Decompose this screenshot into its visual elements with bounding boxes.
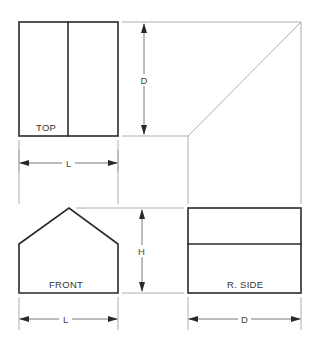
- top-view: TOP: [19, 22, 118, 136]
- dimension-front-length: L: [19, 314, 118, 325]
- dimension-side-depth: D: [188, 314, 301, 325]
- dimension-front-height: H: [138, 209, 145, 292]
- arrow-left-icon: [19, 160, 29, 166]
- right-side-view-label: R. SIDE: [227, 279, 263, 290]
- dimension-top-length: L: [19, 158, 118, 169]
- front-view: FRONT: [19, 208, 118, 293]
- orthographic-drawing: TOP FRONT R. SIDE D L H: [0, 0, 320, 358]
- arrow-down-icon: [141, 125, 147, 135]
- arrow-right-icon: [108, 316, 118, 322]
- dimension-label-l: L: [66, 158, 71, 169]
- dimension-label-d: D: [141, 75, 148, 86]
- arrow-left-icon: [19, 316, 29, 322]
- front-view-label: FRONT: [49, 279, 83, 290]
- miter-line: [188, 22, 301, 136]
- dimension-label-h: H: [138, 246, 145, 257]
- arrow-down-icon: [139, 282, 145, 292]
- top-view-label: TOP: [36, 122, 56, 133]
- dimension-label-l: L: [63, 314, 68, 325]
- arrow-left-icon: [188, 316, 198, 322]
- right-side-view: R. SIDE: [188, 208, 301, 293]
- arrow-up-icon: [139, 209, 145, 219]
- arrow-right-icon: [291, 316, 301, 322]
- arrow-up-icon: [141, 23, 147, 33]
- dimension-top-depth: D: [141, 23, 148, 135]
- dimension-label-d: D: [241, 314, 248, 325]
- arrow-right-icon: [108, 160, 118, 166]
